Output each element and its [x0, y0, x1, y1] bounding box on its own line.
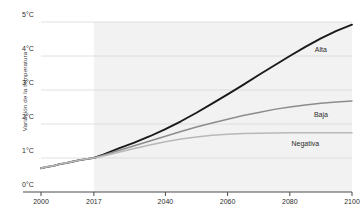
x-tick-label: 2040	[145, 198, 185, 205]
series-label-baja: Baja	[314, 111, 328, 118]
projection-shaded-area	[94, 22, 352, 192]
x-tick-label: 2000	[21, 198, 61, 205]
y-tick-label: 5°C	[22, 11, 34, 18]
y-tick-label: 4°C	[22, 45, 34, 52]
temperature-projection-chart: Variación de la temperatura 0°C1°C2°C3°C…	[0, 0, 361, 215]
y-tick-label: 1°C	[22, 147, 34, 154]
chart-canvas	[0, 0, 361, 215]
x-tick-label: 2100	[332, 198, 361, 205]
y-axis-title: Variación de la temperatura	[21, 22, 28, 162]
x-tick-label: 2080	[270, 198, 310, 205]
y-tick-label: 0°C	[22, 181, 34, 188]
x-tick-label: 2017	[74, 198, 114, 205]
series-label-negativa: Negativa	[292, 140, 320, 147]
x-tick-marks-group	[41, 192, 352, 196]
x-tick-label: 2060	[208, 198, 248, 205]
y-tick-label: 3°C	[22, 79, 34, 86]
series-label-alta: Alta	[315, 46, 327, 53]
projection-shading-group	[94, 22, 352, 192]
y-tick-label: 2°C	[22, 113, 34, 120]
